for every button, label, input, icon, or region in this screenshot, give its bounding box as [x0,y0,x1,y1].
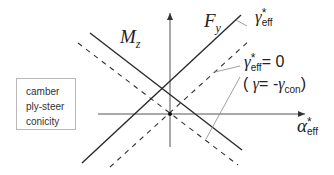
leader-gamma-eff [236,20,247,26]
mz-label: Mz [120,27,141,50]
fy-label-main: F [204,10,216,31]
gamma-eff-zero-label: γ*eff= 0 [244,53,284,73]
gamma-symbol: γ [255,7,262,26]
gamma-zero-sub: eff [251,63,262,73]
mz-label-sub: z [136,37,141,51]
fy-label: Fy [204,11,221,34]
leader-gamma-zero-2 [206,77,240,139]
gamma-con-eq: = - [259,75,278,92]
gamma-con-sub: con [285,84,301,95]
legend-item-camber: camber [26,84,75,99]
gamma-zero-symbol: γ [244,52,251,71]
alpha-symbol: α [297,115,307,136]
gamma-eff-label: γ*eff [255,8,273,28]
gamma-con-label: ( γ= -γcon) [243,76,306,95]
gamma-eff-sub: eff [262,18,273,28]
x-axis-label: α*eff [297,116,318,137]
mz-label-main: M [120,26,136,47]
gamma-zero-suffix: = 0 [262,53,285,70]
fy-label-sub: y [216,21,221,35]
legend-item-conicity: conicity [26,114,75,129]
mz-line [90,33,242,150]
legend-item-ply-steer: ply-steer [26,99,75,114]
origin-dot [168,112,172,116]
fy-dashed-line [110,40,250,167]
fy-line [82,15,241,163]
paren-open: ( [243,75,253,92]
mz-dashed-line [78,43,238,165]
leader-gamma-zero-1 [215,66,240,72]
paren-close: ) [301,75,306,92]
alpha-sub: eff [307,127,318,137]
legend-box: camber ply-steer conicity [16,78,76,130]
